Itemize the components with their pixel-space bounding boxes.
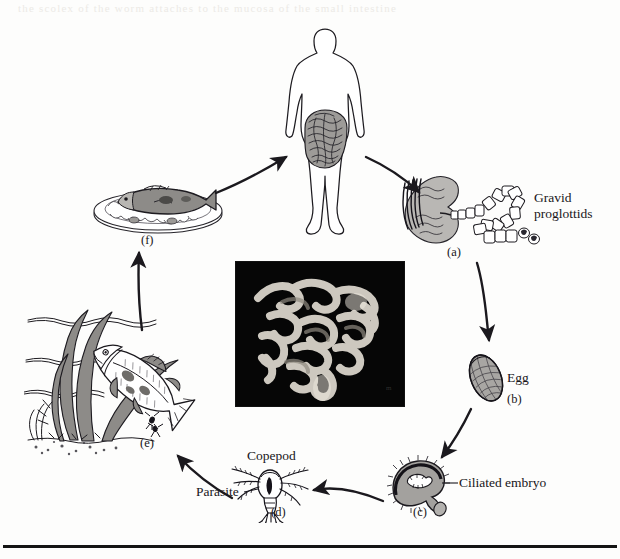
label-parasite: Parasite: [196, 484, 239, 499]
stage-egg: [464, 349, 508, 411]
fish-underwater-illustration: [24, 298, 204, 460]
stage-adult-worm-in-intestine: [402, 173, 542, 259]
label-gravid-proglottids: Gravid proglottids: [534, 190, 593, 222]
stage-copepod: [228, 455, 312, 527]
arrow-egg-to-embryo: [442, 409, 471, 457]
stage-tag-f: (f): [141, 233, 154, 247]
cooked-fish-plate-illustration: [88, 174, 228, 238]
copepod-illustration: [228, 455, 312, 523]
human-figure-illustration: [277, 26, 373, 238]
egg-illustration: [464, 349, 508, 407]
arrow-embryo-to-copepod: [314, 488, 383, 501]
stage-tag-d: (d): [271, 505, 286, 519]
label-egg: Egg: [507, 370, 529, 385]
stage-tag-e: (e): [140, 436, 154, 450]
tapeworm-specimen-photo: m: [235, 261, 405, 407]
label-gravid-proglottids-line2: proglottids: [534, 206, 593, 222]
bottom-rule: [3, 545, 617, 548]
label-ciliated-embryo: Ciliated embryo: [459, 475, 546, 490]
scanner-bleedthrough-text: the scolex of the worm attaches to the m…: [18, 2, 448, 24]
stage-tag-b: (b): [507, 392, 522, 406]
intestine-wall-and-strobila-illustration: [402, 173, 542, 255]
stage-cooked-fish-on-plate: [88, 174, 228, 242]
label-copepod: Copepod: [247, 448, 296, 463]
stage-tag-c: (c): [413, 505, 427, 519]
stage-fish-underwater: [24, 298, 204, 464]
life-cycle-figure: the scolex of the worm attaches to the m…: [0, 0, 620, 559]
stage-tag-a: (a): [447, 245, 461, 259]
specimen-photo-content: m: [236, 262, 402, 404]
label-gravid-proglottids-line1: Gravid: [534, 190, 593, 206]
stage-human-host: [277, 26, 373, 242]
svg-text:m: m: [386, 384, 392, 392]
arrow-proglottids-to-egg: [477, 263, 489, 340]
